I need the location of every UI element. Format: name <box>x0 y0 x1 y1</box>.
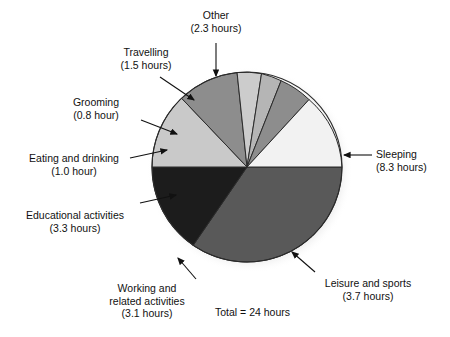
label-travelling-name: Travelling <box>104 46 188 59</box>
label-travelling: Travelling (1.5 hours) <box>104 46 188 71</box>
label-sleeping-value: (8.3 hours) <box>376 161 448 174</box>
label-educational-activities-value: (3.3 hours) <box>14 222 136 235</box>
label-educational-activities: Educational activities (3.3 hours) <box>14 209 136 234</box>
label-leisure-and-sports-value: (3.7 hours) <box>314 290 422 303</box>
label-leisure-and-sports-name: Leisure and sports <box>314 277 422 290</box>
label-leisure-and-sports: Leisure and sports (3.7 hours) <box>314 277 422 302</box>
label-educational-activities-name: Educational activities <box>14 209 136 222</box>
label-eating-and-drinking-value: (1.0 hour) <box>18 165 130 178</box>
label-other: Other (2.3 hours) <box>178 9 254 34</box>
label-eating-and-drinking: Eating and drinking (1.0 hour) <box>18 152 130 177</box>
label-working-and-related-activities-name-1: Working and <box>92 282 202 295</box>
pie-chart-figure: Other (2.3 hours) Travelling (1.5 hours)… <box>0 0 450 337</box>
label-travelling-value: (1.5 hours) <box>104 59 188 72</box>
label-working-and-related-activities-name-2: related activities <box>92 295 202 308</box>
label-grooming-name: Grooming <box>54 96 138 109</box>
label-grooming-value: (0.8 hour) <box>54 109 138 122</box>
label-grooming: Grooming (0.8 hour) <box>54 96 138 121</box>
total-label: Total = 24 hours <box>215 306 335 319</box>
label-other-name: Other <box>178 9 254 22</box>
label-working-and-related-activities: Working and related activities (3.1 hour… <box>92 282 202 320</box>
label-sleeping-name: Sleeping <box>376 148 448 161</box>
label-working-and-related-activities-value: (3.1 hours) <box>92 307 202 320</box>
leader-line-working-and-related-activities <box>178 258 196 279</box>
label-sleeping: Sleeping (8.3 hours) <box>376 148 448 173</box>
label-eating-and-drinking-name: Eating and drinking <box>18 152 130 165</box>
label-other-value: (2.3 hours) <box>178 22 254 35</box>
